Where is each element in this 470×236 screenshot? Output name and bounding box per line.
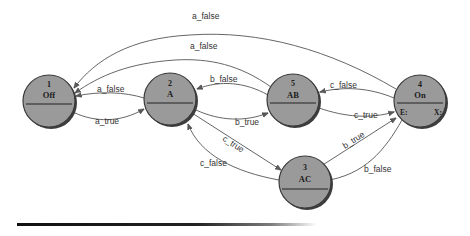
node-ab-name: AB (287, 90, 299, 100)
edge-label-a-off-a-false: a_false (97, 84, 125, 94)
state-diagram: a_false a_false a_false a_true b_false b… (0, 0, 470, 236)
node-off-name: Off (43, 90, 55, 100)
edge-label-on-ac-b-false: b_false (364, 164, 392, 174)
edge-label-ab-on-c-true: c_true (354, 110, 378, 120)
state-node-ab[interactable]: 5 AB (267, 74, 321, 128)
edge-label-ab-off-a-false: a_false (190, 41, 218, 51)
node-ac-id: 3 (303, 163, 307, 172)
edge-label-on-off-a-false: a_false (192, 11, 220, 21)
node-a-id: 2 (168, 79, 172, 88)
footer-divider (17, 223, 317, 226)
node-ac-name: AC (299, 174, 311, 184)
state-node-a[interactable]: 2 A (144, 73, 198, 127)
edge-on-to-ab (320, 89, 394, 98)
edge-label-a-ac-c-true: c_true (221, 133, 246, 154)
node-on-exit: X: (434, 108, 442, 117)
edge-label-ac-on-b-true: b_true (341, 129, 367, 151)
state-node-on[interactable]: 4 On E: X: (394, 75, 448, 129)
edge-label-off-a-a-true: a_true (95, 116, 119, 126)
node-off-id: 1 (47, 80, 51, 89)
edge-label-a-ab-b-true: b_true (235, 117, 259, 127)
edge-ac-to-a (188, 124, 279, 180)
edge-label-ab-a-b-false: b_false (210, 74, 238, 84)
edge-label-ac-a-c-false: c_false (200, 158, 227, 168)
node-a-name: A (167, 89, 174, 99)
edge-label-on-ab-c-false: c_false (330, 80, 357, 90)
edge-ab-to-a (197, 83, 268, 95)
node-on-name: On (414, 90, 426, 100)
state-node-off[interactable]: 1 Off (23, 75, 77, 129)
node-on-id: 4 (418, 80, 422, 89)
node-ab-id: 5 (291, 79, 295, 88)
node-on-entry: E: (400, 108, 408, 117)
